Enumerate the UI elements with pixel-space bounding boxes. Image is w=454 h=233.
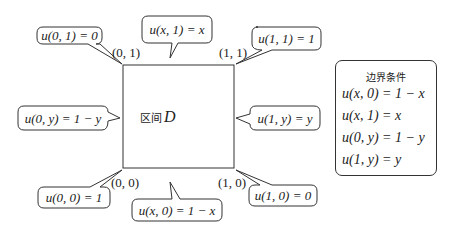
boundary-conditions-legend: 边界条件 u(x, 0) = 1 − x u(x, 1) = x u(0, y)… <box>335 60 437 176</box>
bubble-u10: u(1, 0) = 0 <box>249 185 317 206</box>
bubble-u1y: u(1, y) = y <box>250 106 320 130</box>
corner-label-bottom-right: (1, 0) <box>218 176 246 189</box>
region-label-symbol: D <box>164 108 176 126</box>
bubble-u11: u(1, 1) = 1 <box>252 27 321 50</box>
legend-item: u(x, 0) = 1 − x <box>336 83 436 105</box>
bubble-u0y: u(0, y) = 1 − y <box>18 106 108 130</box>
corner-label-top-left: (0, 1) <box>112 46 140 59</box>
bubble-ux0: u(x, 0) = 1 − x <box>132 199 222 221</box>
region-label: 区间 D <box>140 108 176 126</box>
bubble-u01: u(0, 1) = 0 <box>37 27 102 44</box>
corner-label-top-right: (1, 1) <box>219 46 247 59</box>
bubble-ux1: u(x, 1) = x <box>142 16 212 43</box>
bubble-u00: u(0, 0) = 1 <box>38 187 110 208</box>
legend-item: u(x, 1) = x <box>336 105 436 127</box>
corner-label-bottom-left: (0, 0) <box>111 176 139 189</box>
legend-title: 边界条件 <box>336 69 436 83</box>
legend-item: u(1, y) = y <box>336 149 436 171</box>
legend-item: u(0, y) = 1 − y <box>336 127 436 149</box>
region-label-cn: 区间 <box>140 109 162 125</box>
